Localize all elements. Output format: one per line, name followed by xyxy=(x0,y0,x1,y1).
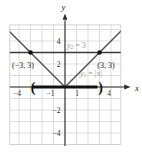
graph-svg: x y −4 −1 1 4 4 2 −2 −4 y2 = 3 y1 = |x| … xyxy=(0,0,142,155)
plot-layer xyxy=(8,13,131,146)
x-tick-label-neg4: −4 xyxy=(13,89,21,98)
y-tick-label-neg4: −4 xyxy=(53,129,61,138)
interval-close-paren: ) xyxy=(98,80,103,96)
interval-open-paren: ( xyxy=(31,80,36,96)
point-label-right: (3, 3) xyxy=(97,61,115,70)
x-axis-label: x xyxy=(134,83,139,93)
y-axis-label: y xyxy=(61,2,66,12)
y-tick-label-2: 2 xyxy=(57,60,61,69)
figure-container: x y −4 −1 1 4 4 2 −2 −4 y2 = 3 y1 = |x| … xyxy=(0,0,142,155)
y-tick-label-neg2: −2 xyxy=(53,106,61,115)
x-tick-label-neg1: −1 xyxy=(47,89,55,98)
y-tick-label-4: 4 xyxy=(57,37,61,46)
x-tick-label-1: 1 xyxy=(75,89,79,98)
x-tick-label-4: 4 xyxy=(107,89,111,98)
equation-label-y2: y2 = 3 xyxy=(66,41,86,51)
point-label-left: (−3, 3) xyxy=(12,61,34,70)
